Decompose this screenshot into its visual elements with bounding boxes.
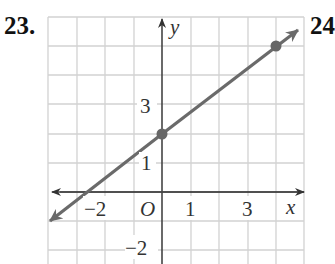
x-tick-3: 3: [242, 197, 253, 221]
x-tick-neg2: −2: [84, 197, 106, 221]
y-axis-label: y: [168, 15, 180, 39]
origin-label: O: [140, 197, 155, 221]
x-axis-label: x: [285, 195, 296, 219]
y-tick-3: 3: [140, 94, 151, 118]
y-tick-1: 1: [141, 151, 152, 175]
point-4-5: [271, 41, 282, 52]
point-0-2: [157, 129, 168, 140]
x-tick-1: 1: [185, 197, 196, 221]
y-tick-neg2: −2: [125, 236, 147, 260]
